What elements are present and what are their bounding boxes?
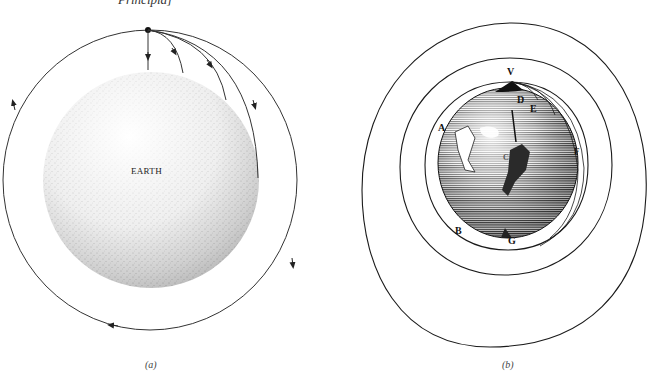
orbit-diagram-a — [0, 0, 320, 377]
panel-b-newton-engraving: V D E F A B G C (b) — [340, 0, 647, 377]
earth-label: EARTH — [131, 166, 162, 176]
trajectory-2 — [148, 30, 183, 73]
orbit-diagram-b — [340, 0, 647, 377]
label-v: V — [507, 66, 514, 77]
engraved-globe — [430, 81, 590, 245]
trajectory-arrow-4-icon — [253, 100, 255, 107]
label-e: E — [530, 103, 537, 114]
orbit-arrow-right-icon — [292, 258, 293, 266]
label-b: B — [455, 225, 462, 236]
label-g: G — [508, 235, 516, 246]
label-f: F — [574, 146, 580, 156]
label-d: D — [517, 94, 524, 105]
orbit-arrow-bottom-icon — [110, 325, 118, 326]
orbit-arrow-left-icon — [13, 102, 15, 110]
label-c: C — [503, 153, 509, 162]
caption-b: (b) — [502, 359, 514, 370]
panel-a-earth-orbit-diagram: EARTH (a) — [0, 0, 320, 377]
caption-a: (a) — [145, 359, 157, 370]
earth-sphere — [43, 72, 259, 288]
label-a: A — [438, 122, 445, 133]
